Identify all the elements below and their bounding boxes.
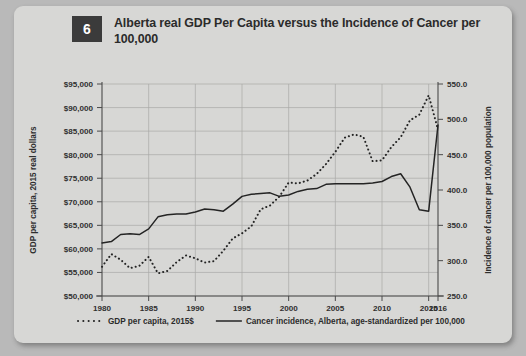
chart-svg: $50,000$55,000$60,000$65,000$70,000$75,0… (14, 68, 512, 343)
y-tick-label: $95,000 (64, 80, 94, 89)
figure-header: 6 Alberta real GDP Per Capita versus the… (14, 6, 512, 68)
y2-tick-label: 550.0 (447, 80, 468, 89)
y-tick-label: $60,000 (64, 245, 94, 254)
figure-title: Alberta real GDP Per Capita versus the I… (114, 16, 486, 47)
x-tick-label: 2010 (373, 304, 392, 313)
x-axis-tick-labels: 198019851990199520002005201020152016 (93, 304, 448, 313)
x-tick-label: 1990 (186, 304, 205, 313)
data-series (102, 95, 438, 273)
chart-legend: GDP per capita, 2015$Cancer incidence, A… (78, 317, 465, 326)
y-tick-label: $85,000 (64, 127, 94, 136)
axes (96, 82, 444, 296)
legend-label-2: Cancer incidence, Alberta, age-standardi… (246, 317, 465, 326)
x-tick-label: 1985 (140, 304, 159, 313)
x-tick-label: 1995 (233, 304, 252, 313)
y-tick-label: $70,000 (64, 198, 94, 207)
y-tick-label: $80,000 (64, 151, 94, 160)
y-axis-tick-labels: $50,000$55,000$60,000$65,000$70,000$75,0… (64, 80, 94, 301)
chart-plot-area: $50,000$55,000$60,000$65,000$70,000$75,0… (14, 68, 512, 343)
y-tick-label: $65,000 (64, 221, 94, 230)
y-tick-label: $75,000 (64, 174, 94, 183)
figure-card: 6 Alberta real GDP Per Capita versus the… (14, 6, 512, 343)
x-tick-label: 2016 (429, 304, 448, 313)
series-path-1 (102, 95, 438, 273)
y2-axis-title: Incidence of cancer per 100,000 populati… (484, 106, 493, 273)
x-tick-label: 2000 (280, 304, 299, 313)
x-tick-label: 2005 (326, 304, 345, 313)
legend-label-1: GDP per capita, 2015$ (108, 317, 194, 326)
y-tick-label: $90,000 (64, 104, 94, 113)
x-tick-label: 1980 (93, 304, 112, 313)
figure-title-line-1: Alberta real GDP Per Capita versus the I… (114, 16, 458, 30)
y2-tick-label: 500.0 (447, 115, 468, 124)
y-axis-title: GDP per capita, 2015 real dollars (29, 126, 38, 254)
y2-tick-label: 450.0 (447, 151, 468, 160)
y-tick-label: $50,000 (64, 292, 94, 301)
y2-axis-tick-labels: 250.0300.0350.0400.0450.0500.0550.0 (447, 80, 468, 301)
y2-tick-label: 250.0 (447, 292, 468, 301)
y2-tick-label: 400.0 (447, 186, 468, 195)
y2-tick-label: 350.0 (447, 221, 468, 230)
figure-number-badge: 6 (72, 16, 102, 42)
y-tick-label: $55,000 (64, 268, 94, 277)
y2-tick-label: 300.0 (447, 257, 468, 266)
